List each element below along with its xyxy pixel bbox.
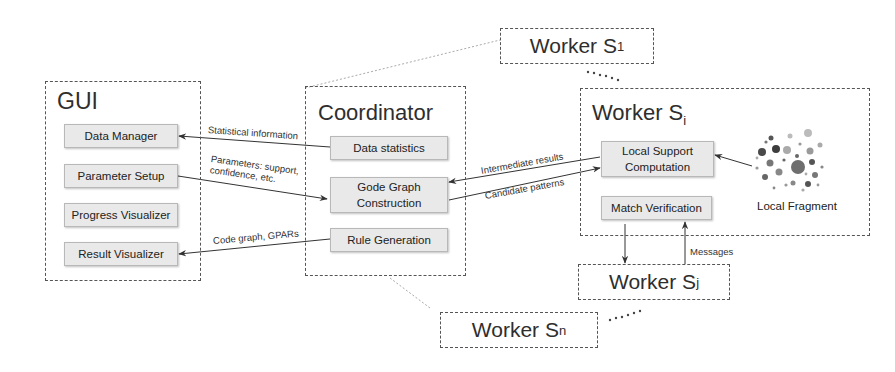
label-messages: Messages <box>690 246 733 257</box>
parameter-setup-module: Parameter Setup <box>64 164 178 188</box>
label-statistical-information: Statistical information <box>208 124 299 141</box>
worker-sn-box: Worker Sn <box>440 312 598 348</box>
worker-s1-box: Worker S1 <box>500 28 654 64</box>
worker-sj-title: Worker S <box>609 270 696 294</box>
construction-line2: Construction <box>357 195 422 211</box>
label-candidate-patterns: Candidate patterns <box>484 176 565 201</box>
link-coordinator-s1 <box>305 40 500 88</box>
ellipsis-dots-s1 <box>587 71 619 81</box>
link-coordinator-sn <box>390 278 430 308</box>
coordinator-title: Coordinator <box>318 100 433 126</box>
worker-s1-subscript: 1 <box>617 39 624 54</box>
worker-s1-title: Worker S <box>530 34 617 58</box>
data-statistics-module: Data statistics <box>330 136 448 160</box>
match-verification-module: Match Verification <box>601 196 712 220</box>
worker-sj-subscript: j <box>696 275 699 290</box>
data-manager-module: Data Manager <box>64 124 178 148</box>
rule-generation-module: Rule Generation <box>330 228 448 252</box>
construction-line1: Gode Graph <box>357 179 420 195</box>
worker-si-subscript: i <box>683 113 686 128</box>
local-support-line1: Local Support <box>622 143 693 159</box>
gode-graph-construction-module: Gode Graph Construction <box>330 177 448 213</box>
result-visualizer-module: Result Visualizer <box>64 242 178 266</box>
progress-visualizer-module: Progress Visualizer <box>64 203 178 227</box>
local-support-computation-module: Local Support Computation <box>601 141 714 177</box>
worker-si-title-text: Worker S <box>592 100 683 125</box>
local-fragment-label: Local Fragment <box>757 200 837 212</box>
local-support-line2: Computation <box>625 159 690 175</box>
gui-title: GUI <box>57 88 98 115</box>
label-intermediate-results: Intermediate results <box>480 151 564 176</box>
worker-sn-title: Worker S <box>472 318 559 342</box>
worker-sn-subscript: n <box>559 323 566 338</box>
ellipsis-dots-sn <box>609 310 641 321</box>
worker-sj-box: Worker Sj <box>578 264 730 300</box>
worker-si-title: Worker Si <box>592 100 686 128</box>
label-code-graph: Code graph, GPARs <box>213 228 300 246</box>
